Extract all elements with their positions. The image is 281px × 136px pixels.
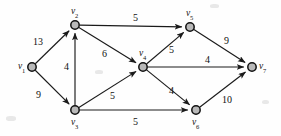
node-v5: [186, 23, 194, 31]
node-label-subscript: 7: [263, 67, 266, 74]
node-label-subscript: 4: [143, 54, 146, 61]
edge-v2-v4: [79, 27, 136, 62]
node-label-v4: v4: [139, 49, 146, 60]
edge-weight-v3-v4: 5: [110, 91, 115, 101]
node-label-subscript: 3: [75, 123, 78, 130]
edge-weight-v1-v3: 9: [36, 90, 41, 100]
edge-v2-v5: [80, 25, 182, 27]
node-label-v2: v2: [71, 7, 78, 18]
node-label-v5: v5: [186, 9, 193, 20]
edge-weight-v4-v5: 5: [169, 45, 174, 55]
node-label-v1: v1: [18, 62, 25, 73]
node-label-subscript: 5: [190, 14, 193, 21]
edge-weight-v3-v6: 5: [133, 117, 138, 127]
node-label-subscript: 1: [22, 67, 25, 74]
node-label-subscript: 2: [75, 12, 78, 19]
node-v4: [139, 63, 147, 71]
node-v2: [71, 21, 79, 29]
edge-weight-v4-v7: 4: [205, 55, 210, 65]
edge-weight-v2-v5: 5: [133, 13, 138, 23]
scan-speck: [6, 116, 16, 121]
node-label-v3: v3: [71, 118, 78, 129]
graph-canvas: [0, 0, 281, 136]
edge-v4-v5: [147, 32, 184, 64]
node-v1: [28, 63, 36, 71]
node-v3: [71, 106, 79, 114]
scan-speck: [210, 4, 219, 8]
node-label-v7: v7: [259, 62, 266, 73]
node-label-subscript: 6: [196, 123, 199, 130]
scan-speck: [95, 70, 103, 74]
edge-weight-v2-v4: 6: [102, 49, 107, 59]
edge-weight-v1-v2: 13: [33, 37, 43, 47]
node-label-v6: v6: [192, 118, 199, 129]
edge-weight-v4-v6: 4: [169, 86, 174, 96]
node-v6: [192, 106, 200, 114]
edge-v5-v7: [194, 29, 245, 62]
scan-speck: [262, 100, 269, 104]
node-v7: [248, 63, 256, 71]
edge-v3-v4: [79, 71, 136, 107]
edge-weight-v3-v2: 4: [64, 62, 69, 72]
graph-figure: v1v2v3v4v5v6v7 13946555445910: [0, 0, 281, 136]
edge-weight-v5-v7: 9: [224, 36, 229, 46]
edge-weight-v6-v7: 10: [222, 95, 232, 105]
